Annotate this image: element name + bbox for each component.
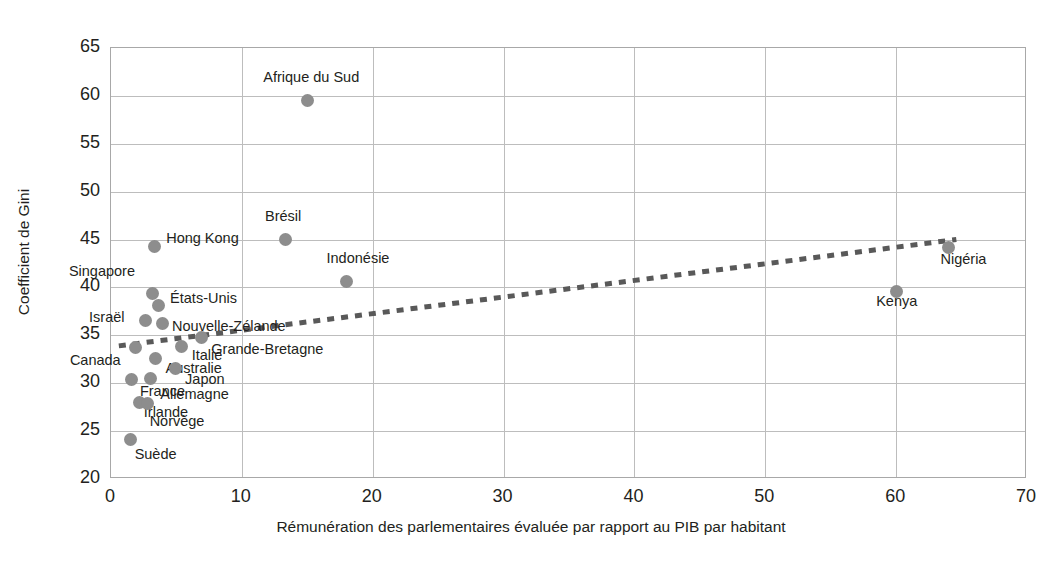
y-tick-label: 65 [56,36,100,57]
x-tick-label: 60 [865,486,925,507]
data-point-label: Grande-Bretagne [211,342,323,357]
data-point [144,372,157,385]
data-point-label: Kenya [876,294,917,309]
data-point [139,314,152,327]
data-point-label: États-Unis [170,291,237,306]
y-tick-label: 35 [56,323,100,344]
data-point-label: Singapore [69,264,135,279]
data-point-label: Suède [135,447,177,462]
data-point [149,352,162,365]
data-point-label: Japon [185,372,225,387]
data-point-label: Nouvelle-Zélande [172,319,286,334]
data-point-label: Afrique du Sud [263,70,359,85]
x-tick-label: 70 [996,486,1056,507]
y-tick-label: 55 [56,132,100,153]
data-point [146,287,159,300]
data-point [279,233,292,246]
data-point [195,331,208,344]
y-tick-label: 20 [56,467,100,488]
data-point [301,94,314,107]
data-point-label: Norvège [150,414,205,429]
data-point-label: Canada [70,353,121,368]
data-point [156,317,169,330]
chart-canvas: Coefficient de Gini 65605550454035302520… [0,0,1062,569]
trendline [111,48,1027,479]
x-tick-label: 10 [211,486,271,507]
y-tick-label: 25 [56,419,100,440]
y-axis-title: Coefficient de Gini [15,132,33,372]
data-point-label: Hong Kong [166,231,239,246]
data-point-label: Nigéria [940,252,986,267]
x-tick-label: 30 [473,486,533,507]
x-axis-title: Rémunération des parlementaires évaluée … [0,518,1062,536]
x-tick-label: 20 [342,486,402,507]
x-tick-label: 50 [734,486,794,507]
y-tick-label: 60 [56,84,100,105]
data-point [148,240,161,253]
y-tick-label: 50 [56,180,100,201]
data-point-label: Brésil [265,209,301,224]
data-point [169,362,182,375]
plot-area: Afrique du SudBrésilIndonésieHong KongSi… [110,47,1026,478]
y-tick-label: 45 [56,228,100,249]
data-point-label: Israël [89,310,124,325]
x-tick-label: 0 [80,486,140,507]
data-point [152,299,165,312]
data-point-label: Indonésie [327,251,390,266]
data-point-label: Allemagne [160,387,229,402]
data-point [141,397,154,410]
x-tick-label: 40 [603,486,663,507]
y-tick-label: 30 [56,371,100,392]
